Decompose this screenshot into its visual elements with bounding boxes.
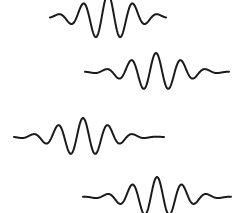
wave-packet-figure [0,0,232,213]
figure-canvas [0,0,232,213]
figure-background [0,0,232,213]
